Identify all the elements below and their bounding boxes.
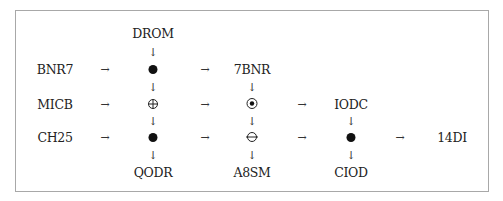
circled-plus-icon [148,95,159,114]
circled-minus-icon [246,128,259,147]
arrow-down-icon: ↓ [247,149,256,162]
arrow-down-icon: ↓ [247,115,256,128]
arrow-right-icon: → [100,98,109,111]
label-iodc: IODC [334,97,368,112]
label-14di: 14DI [437,130,467,145]
arrow-down-icon: ↓ [148,149,157,162]
filled-dot-icon [346,128,356,147]
arrow-right-icon: → [200,131,209,144]
filled-dot-icon [148,128,158,147]
arrow-down-icon: ↓ [247,81,256,94]
arrow-right-icon: → [100,131,109,144]
arrow-down-icon: ↓ [346,149,355,162]
arrow-down-icon: ↓ [148,46,157,59]
arrow-down-icon: ↓ [148,81,157,94]
label-ch25: CH25 [37,130,72,145]
arrow-right-icon: → [297,98,306,111]
arrow-right-icon: → [297,131,306,144]
circled-dot-icon [246,95,258,114]
arrow-down-icon: ↓ [148,115,157,128]
label-ciod: CIOD [334,165,368,180]
arrow-right-icon: → [200,98,209,111]
arrow-right-icon: → [100,63,109,76]
label-micb: MICB [37,97,72,112]
label-qodr: QODR [134,165,173,180]
arrow-right-icon: → [395,131,404,144]
label-a8sm: A8SM [233,165,270,180]
arrow-down-icon: ↓ [346,115,355,128]
label-bnr7: BNR7 [37,62,73,77]
label-7bnr: 7BNR [234,62,270,77]
label-drom: DROM [132,26,173,41]
filled-dot-icon [148,60,158,79]
arrow-right-icon: → [200,63,209,76]
